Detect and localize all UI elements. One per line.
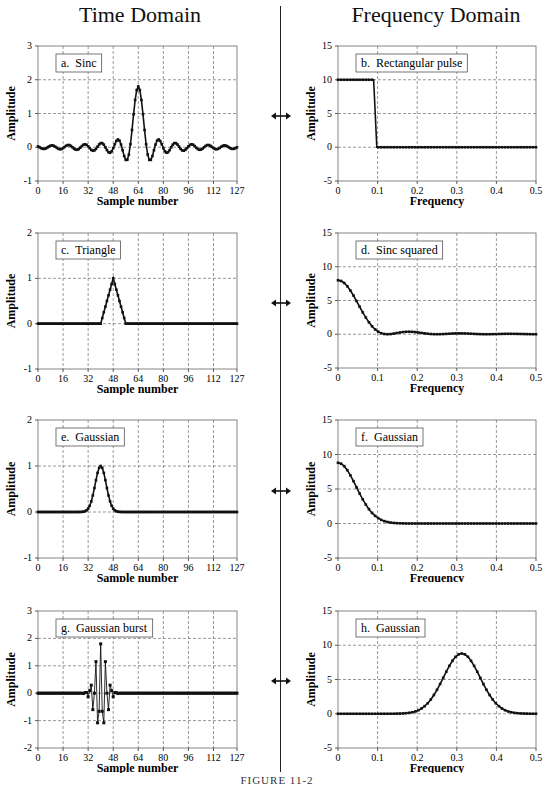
x-tick-label: 0.4 [490, 752, 503, 763]
frequency-domain-heading: Frequency Domain [316, 2, 554, 28]
x-tick-label: 127 [230, 185, 245, 196]
chart-label-e: e. Gaussian [56, 428, 124, 446]
y-tick-label: -1 [24, 175, 32, 186]
x-tick-label: 0 [336, 185, 341, 196]
svg-text:b. Rectangular pulse: b. Rectangular pulse [361, 56, 462, 70]
x-tick-label: 0 [36, 752, 41, 763]
x-tick-label: 96 [183, 752, 193, 763]
y-tick-label: 15 [322, 227, 332, 238]
x-tick-label: 16 [58, 373, 68, 384]
x-axis-label: Sample number [97, 761, 179, 773]
x-tick-label: 32 [83, 373, 93, 384]
chart-panel-g: 0163248648096112127-2-10123Sample number… [0, 603, 277, 777]
series-line [338, 653, 536, 713]
x-tick-label: 16 [58, 752, 68, 763]
y-tick-label: 0 [27, 141, 32, 152]
y-tick-label: 2 [27, 414, 32, 425]
chart-panel-b: 00.10.20.30.40.5-5051015FrequencyAmplitu… [277, 38, 554, 212]
x-tick-label: 0 [36, 185, 41, 196]
x-tick-label: 127 [230, 373, 245, 384]
y-axis-label: Amplitude [4, 461, 18, 516]
y-tick-label: -2 [24, 742, 32, 753]
y-tick-label: -1 [24, 552, 32, 563]
x-tick-label: 0.4 [490, 185, 503, 196]
figure-caption: FIGURE 11-2 [0, 774, 554, 786]
x-tick-label: 0 [36, 373, 41, 384]
x-tick-label: 96 [183, 562, 193, 573]
series-line [38, 278, 237, 323]
y-tick-label: -5 [324, 742, 332, 753]
chart-panel-e: 0163248648096112127-1012Sample numberAmp… [0, 412, 277, 586]
y-tick-label: 10 [322, 639, 332, 650]
y-tick-label: 15 [322, 605, 332, 616]
x-axis-label: Sample number [97, 382, 179, 395]
x-tick-label: 0 [36, 562, 41, 573]
y-tick-label: 0 [327, 518, 332, 529]
y-tick-label: 5 [327, 483, 332, 494]
x-tick-label: 0 [336, 562, 341, 573]
data-markers [37, 465, 239, 514]
y-tick-label: 3 [27, 40, 32, 51]
chart-label-a: a. Sinc [56, 54, 102, 72]
chart-panel-h: 00.10.20.30.40.5-5051015FrequencyAmplitu… [277, 603, 554, 777]
svg-text:f. Gaussian: f. Gaussian [361, 430, 418, 444]
x-axis-label: Frequency [410, 194, 464, 208]
y-tick-label: 0 [27, 506, 32, 517]
y-tick-label: 5 [327, 108, 332, 119]
chart-panel-d: 00.10.20.30.40.5-5051015FrequencyAmplitu… [277, 225, 554, 399]
y-tick-label: -5 [324, 552, 332, 563]
svg-text:a. Sinc: a. Sinc [61, 56, 97, 70]
time-domain-heading: Time Domain [20, 2, 260, 28]
y-axis-label: Amplitude [4, 651, 18, 706]
y-tick-label: 10 [322, 74, 332, 85]
chart-label-h: h. Gaussian [356, 619, 425, 637]
y-axis-label: Amplitude [4, 85, 18, 140]
chart-label-b: b. Rectangular pulse [356, 54, 467, 72]
series-line [38, 644, 237, 723]
x-axis-label: Sample number [97, 194, 179, 208]
y-tick-label: 10 [322, 261, 332, 272]
x-tick-label: 0 [336, 372, 341, 383]
y-tick-label: -5 [324, 175, 332, 186]
x-tick-label: 112 [206, 752, 221, 763]
x-tick-label: 127 [230, 752, 245, 763]
x-tick-label: 0.4 [490, 372, 503, 383]
x-tick-label: 32 [83, 752, 93, 763]
x-tick-label: 127 [230, 562, 245, 573]
x-axis-label: Sample number [97, 571, 179, 582]
y-tick-label: 1 [27, 660, 32, 671]
series-line [38, 87, 237, 160]
y-tick-label: 15 [322, 40, 332, 51]
x-tick-label: 32 [83, 185, 93, 196]
svg-text:h. Gaussian: h. Gaussian [361, 621, 420, 635]
y-tick-label: 2 [27, 74, 32, 85]
series-line [338, 280, 536, 334]
x-tick-label: 0.5 [530, 752, 543, 763]
y-tick-label: -5 [324, 362, 332, 373]
x-tick-label: 112 [206, 373, 221, 384]
series-line [338, 80, 536, 148]
x-tick-label: 0.5 [530, 562, 543, 573]
x-tick-label: 96 [183, 185, 193, 196]
y-tick-label: 0 [27, 318, 32, 329]
y-axis-label: Amplitude [304, 272, 318, 327]
x-axis-label: Frequency [410, 761, 464, 773]
y-tick-label: 2 [27, 227, 32, 238]
y-tick-label: -1 [24, 715, 32, 726]
y-tick-label: 5 [327, 674, 332, 685]
x-tick-label: 0.5 [530, 372, 543, 383]
y-axis-label: Amplitude [4, 273, 18, 328]
y-axis-label: Amplitude [304, 651, 318, 706]
svg-text:e. Gaussian: e. Gaussian [61, 430, 119, 444]
x-tick-label: 0.1 [371, 562, 384, 573]
y-tick-label: 1 [27, 460, 32, 471]
x-tick-label: 0.1 [371, 752, 384, 763]
y-tick-label: -1 [24, 363, 32, 374]
x-tick-label: 32 [83, 562, 93, 573]
x-tick-label: 96 [183, 373, 193, 384]
x-tick-label: 0 [336, 752, 341, 763]
chart-panel-a: 0163248648096112127-10123Sample numberAm… [0, 38, 277, 212]
y-tick-label: 3 [27, 605, 32, 616]
y-tick-label: 5 [327, 295, 332, 306]
y-tick-label: 1 [27, 272, 32, 283]
